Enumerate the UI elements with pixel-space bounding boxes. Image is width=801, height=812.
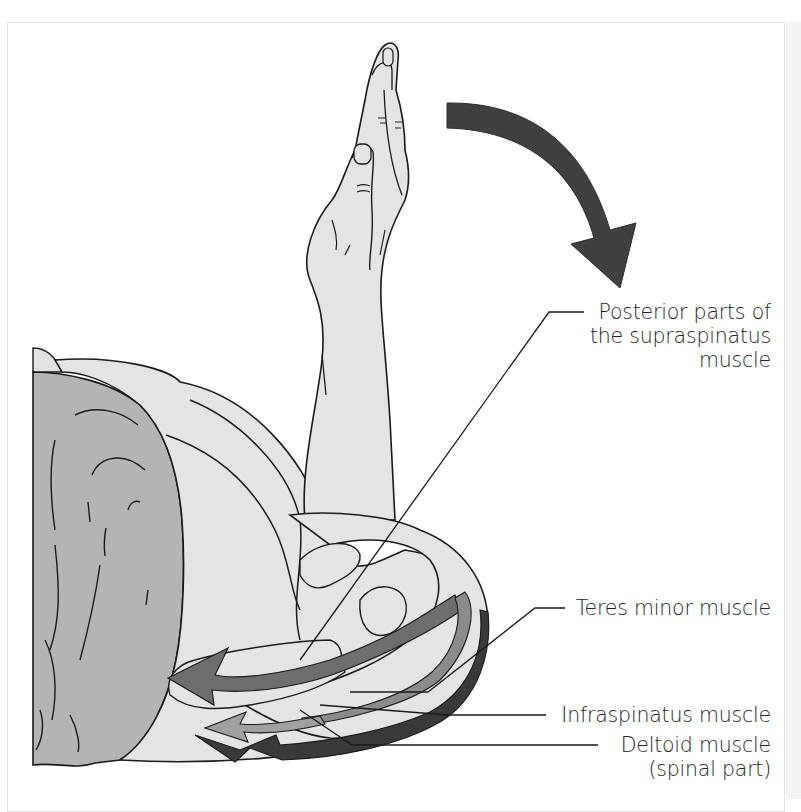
arm [304, 43, 409, 520]
label-infraspinatus: Infraspinatus muscle [561, 703, 771, 727]
label-teres-minor: Teres minor muscle [576, 596, 771, 620]
label-supraspinatus: Posterior parts of the supraspinatus mus… [590, 300, 771, 372]
motion-arrow [447, 103, 636, 288]
label-deltoid: Deltoid muscle (spinal part) [621, 733, 771, 781]
